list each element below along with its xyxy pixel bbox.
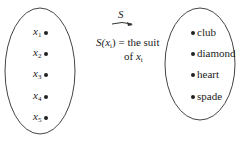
point-dot bbox=[191, 73, 195, 77]
arrowhead-icon bbox=[127, 22, 133, 26]
point-dot bbox=[191, 31, 195, 35]
definition-line-2: of xi bbox=[124, 51, 143, 64]
point-dot bbox=[44, 31, 48, 35]
definition-line-1: S(xi) = the suit bbox=[96, 37, 159, 50]
point-dot bbox=[191, 95, 195, 99]
point-dot bbox=[44, 52, 48, 56]
codomain-ellipse bbox=[165, 8, 235, 120]
point-dot bbox=[44, 73, 48, 77]
point-dot bbox=[44, 95, 48, 99]
point-dot bbox=[191, 52, 195, 56]
point-dot bbox=[44, 116, 48, 120]
arrow-label: S bbox=[118, 9, 124, 20]
